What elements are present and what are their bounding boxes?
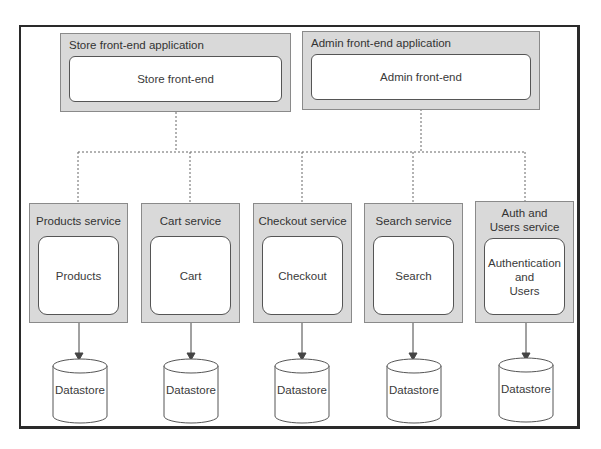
admin-frontend-component: Admin front-end: [311, 54, 531, 100]
store-frontend-label: Store front-end: [137, 73, 214, 85]
datastore-label: Datastore: [52, 384, 108, 396]
search-service: Search service Search: [364, 203, 463, 323]
auth-users-component: Authentication and Users: [484, 238, 565, 315]
search-component: Search: [373, 236, 454, 315]
store-frontend-component: Store front-end: [69, 56, 282, 102]
admin-frontend-application: Admin front-end application Admin front-…: [302, 31, 540, 110]
products-service-title: Products service: [30, 214, 127, 228]
store-frontend-application: Store front-end application Store front-…: [60, 33, 291, 112]
datastore-label: Datastore: [163, 384, 219, 396]
auth-users-service-title: Auth and Users service: [476, 206, 573, 234]
cart-component: Cart: [150, 236, 231, 315]
checkout-service: Checkout service Checkout: [253, 203, 352, 323]
checkout-service-title: Checkout service: [254, 214, 351, 228]
products-component: Products: [38, 236, 119, 315]
products-service: Products service Products: [29, 203, 128, 323]
auth-users-service: Auth and Users service Authentication an…: [475, 201, 574, 323]
datastore-label: Datastore: [386, 384, 442, 396]
search-datastore: Datastore: [386, 358, 442, 424]
auth-users-datastore: Datastore: [498, 357, 554, 423]
products-datastore: Datastore: [52, 358, 108, 424]
datastore-label: Datastore: [498, 383, 554, 395]
store-frontend-application-title: Store front-end application: [69, 39, 204, 51]
checkout-component: Checkout: [262, 236, 343, 315]
admin-frontend-application-title: Admin front-end application: [311, 37, 451, 49]
datastore-label: Datastore: [274, 384, 330, 396]
checkout-datastore: Datastore: [274, 358, 330, 424]
cart-service: Cart service Cart: [141, 203, 240, 323]
search-service-title: Search service: [365, 214, 462, 228]
admin-frontend-label: Admin front-end: [380, 71, 462, 83]
cart-datastore: Datastore: [163, 358, 219, 424]
cart-service-title: Cart service: [142, 214, 239, 228]
